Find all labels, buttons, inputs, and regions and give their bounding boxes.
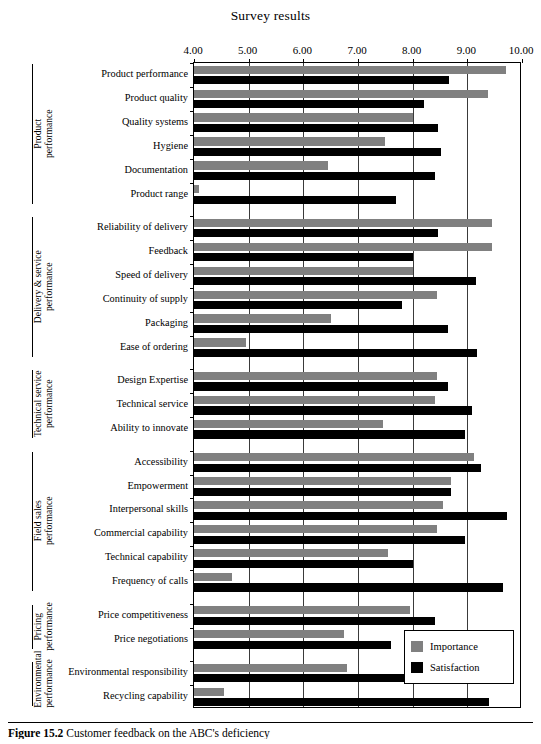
category-label: Packaging <box>145 318 188 328</box>
bar-importance <box>194 573 232 581</box>
y-axis-tick <box>190 451 194 452</box>
y-axis-tick <box>190 369 194 370</box>
y-axis-tick <box>190 417 194 418</box>
y-axis-tick <box>190 264 194 265</box>
bar-satisfaction <box>194 488 451 496</box>
bar-satisfaction <box>194 100 424 108</box>
figure-caption: Figure 15.2 Customer feedback on the ABC… <box>8 727 533 739</box>
x-axis-tick-label: 8.00 <box>402 44 421 56</box>
x-axis-tick <box>303 59 304 63</box>
bar-importance <box>194 219 492 227</box>
legend-item-satisfaction: Satisfaction <box>411 657 507 678</box>
bar-importance <box>194 137 385 145</box>
caption-label: Figure 15.2 <box>8 727 63 739</box>
x-axis-tick <box>522 59 523 63</box>
x-axis-tick-label: 6.00 <box>293 44 312 56</box>
bar-importance <box>194 90 488 98</box>
category-label: Documentation <box>125 165 188 175</box>
bar-importance <box>194 688 224 696</box>
y-axis-tick <box>190 159 194 160</box>
category-label: Environmental responsibility <box>68 667 188 677</box>
y-axis-tick <box>190 604 194 605</box>
x-axis-tick <box>249 59 250 63</box>
bar-importance <box>194 630 344 638</box>
y-axis-tick <box>190 546 194 547</box>
chart-legend: Importance Satisfaction <box>404 630 514 684</box>
bar-satisfaction <box>194 196 396 204</box>
bar-importance <box>194 338 246 346</box>
x-axis-tick <box>413 59 414 63</box>
bar-satisfaction <box>194 229 438 237</box>
caption-text: Customer feedback on the ABC's deficienc… <box>66 727 270 739</box>
chart-title: Survey results <box>0 8 541 24</box>
category-label: Commercial capability <box>94 528 188 538</box>
bar-importance <box>194 501 443 509</box>
bar-satisfaction <box>194 641 391 649</box>
y-axis-tick <box>190 216 194 217</box>
bar-importance <box>194 420 383 428</box>
bar-importance <box>194 396 435 404</box>
group-label: Product performance <box>33 62 54 206</box>
bar-importance <box>194 549 388 557</box>
y-axis-tick <box>190 111 194 112</box>
bar-satisfaction <box>194 536 465 544</box>
group-bracket <box>32 452 33 592</box>
y-axis-tick <box>190 312 194 313</box>
group-label: Technical service performance <box>33 368 54 440</box>
bar-satisfaction <box>194 382 448 390</box>
y-axis-tick <box>190 135 194 136</box>
category-label: Interpersonal skills <box>109 504 188 514</box>
gridline <box>467 63 468 707</box>
category-label: Quality systems <box>122 117 188 127</box>
category-label: Price competitiveness <box>98 610 188 620</box>
bar-satisfaction <box>194 464 481 472</box>
category-label: Product quality <box>125 93 188 103</box>
group-bracket <box>32 605 33 649</box>
legend-label-importance: Importance <box>430 641 478 652</box>
group-label: Pricing performance <box>33 602 54 650</box>
group-label: Environmental performance <box>33 660 54 708</box>
bar-importance <box>194 243 492 251</box>
bar-satisfaction <box>194 124 438 132</box>
bar-satisfaction <box>194 512 507 520</box>
category-label: Hygiene <box>153 141 188 151</box>
bar-satisfaction <box>194 698 489 706</box>
category-label: Accessibility <box>134 456 188 466</box>
bar-importance <box>194 185 199 193</box>
bar-satisfaction <box>194 76 449 84</box>
y-axis-tick <box>190 475 194 476</box>
group-bracket <box>32 662 33 706</box>
bar-importance <box>194 161 328 169</box>
bar-importance <box>194 66 506 74</box>
survey-results-figure: Survey results Importance Satisfaction F… <box>0 0 541 744</box>
bar-importance <box>194 606 410 614</box>
category-label: Speed of delivery <box>115 270 188 280</box>
bar-importance <box>194 477 451 485</box>
y-axis-tick <box>190 685 194 686</box>
x-axis-tick-label: 4.00 <box>183 44 202 56</box>
category-label: Frequency of calls <box>112 576 188 586</box>
category-label: Recycling capability <box>103 691 188 701</box>
y-axis-tick <box>190 498 194 499</box>
category-label: Continuity of supply <box>103 294 188 304</box>
y-axis-tick <box>190 288 194 289</box>
category-label: Technical service <box>116 399 188 409</box>
legend-swatch-satisfaction <box>411 662 423 673</box>
plot-area <box>193 62 521 708</box>
group-label: Delivery & service performance <box>33 215 54 359</box>
bar-satisfaction <box>194 148 441 156</box>
legend-label-satisfaction: Satisfaction <box>430 662 480 673</box>
bar-satisfaction <box>194 406 472 414</box>
bar-satisfaction <box>194 583 503 591</box>
y-axis-tick <box>190 63 194 64</box>
legend-item-importance: Importance <box>411 636 507 657</box>
group-label: Field sales performance <box>33 449 54 593</box>
y-axis-tick <box>190 570 194 571</box>
bar-importance <box>194 372 437 380</box>
bar-satisfaction <box>194 253 413 261</box>
bar-satisfaction <box>194 430 465 438</box>
y-axis-tick <box>190 240 194 241</box>
group-bracket <box>32 217 33 357</box>
bar-importance <box>194 113 413 121</box>
bar-satisfaction <box>194 172 435 180</box>
